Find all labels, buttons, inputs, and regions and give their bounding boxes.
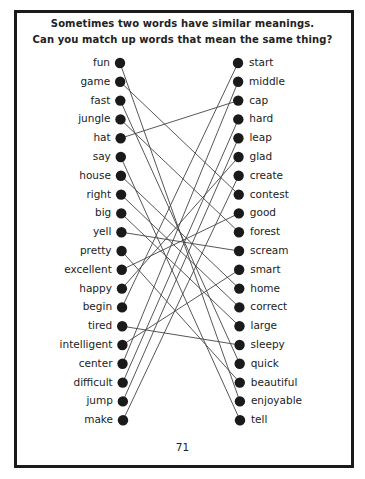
right-dot-glad bbox=[233, 152, 243, 162]
left-dot-intelligent bbox=[117, 340, 127, 350]
page-number: 71 bbox=[0, 441, 365, 453]
left-dot-house bbox=[116, 171, 126, 181]
match-line-tired-sleepy bbox=[122, 326, 239, 345]
right-dot-beautiful bbox=[235, 377, 245, 387]
match-line-hat-cap bbox=[121, 101, 239, 139]
matching-diagram bbox=[0, 0, 365, 479]
match-line-intelligent-smart bbox=[122, 270, 239, 345]
right-dot-leap bbox=[233, 133, 243, 143]
left-dot-right bbox=[116, 189, 126, 199]
right-dot-home bbox=[234, 283, 244, 293]
right-dot-smart bbox=[234, 265, 244, 275]
left-dot-happy bbox=[117, 283, 127, 293]
right-dot-cap bbox=[233, 95, 243, 105]
right-dot-tell bbox=[235, 415, 245, 425]
left-dot-fun bbox=[115, 58, 125, 68]
right-dot-start bbox=[233, 58, 243, 68]
match-line-jungle-forest bbox=[120, 119, 238, 232]
right-dot-hard bbox=[233, 114, 243, 124]
right-dot-large bbox=[234, 321, 244, 331]
left-dot-big bbox=[116, 208, 126, 218]
left-dot-game bbox=[115, 77, 125, 87]
right-dot-middle bbox=[233, 77, 243, 87]
left-dot-make bbox=[118, 415, 128, 425]
left-dot-jump bbox=[118, 396, 128, 406]
right-dot-forest bbox=[234, 227, 244, 237]
right-dot-enjoyable bbox=[235, 396, 245, 406]
right-dot-sleepy bbox=[234, 340, 244, 350]
match-line-say-tell bbox=[121, 157, 240, 420]
right-dot-good bbox=[234, 208, 244, 218]
right-dot-correct bbox=[234, 302, 244, 312]
left-dot-center bbox=[117, 359, 127, 369]
left-dot-yell bbox=[116, 227, 126, 237]
left-dot-hat bbox=[115, 133, 125, 143]
right-dot-quick bbox=[234, 359, 244, 369]
left-dot-fast bbox=[115, 95, 125, 105]
left-dot-tired bbox=[117, 321, 127, 331]
left-dot-pretty bbox=[116, 246, 126, 256]
match-line-difficult-hard bbox=[123, 119, 239, 382]
right-dot-create bbox=[233, 171, 243, 181]
right-dot-contest bbox=[234, 189, 244, 199]
left-dot-excellent bbox=[117, 265, 127, 275]
left-dot-jungle bbox=[115, 114, 125, 124]
left-dot-begin bbox=[117, 302, 127, 312]
left-dot-say bbox=[116, 152, 126, 162]
right-dot-scream bbox=[234, 246, 244, 256]
left-dot-difficult bbox=[117, 377, 127, 387]
